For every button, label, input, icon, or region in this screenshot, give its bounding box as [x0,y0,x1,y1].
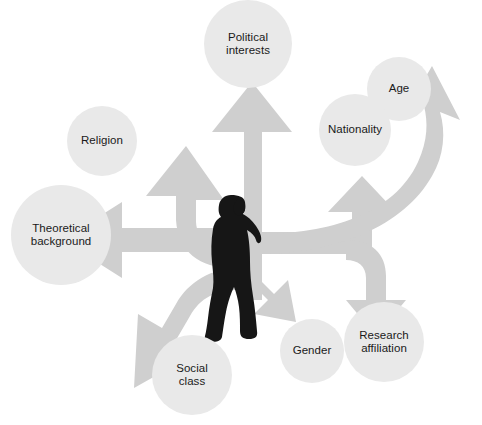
node-label: Gender [293,344,332,358]
node-theoretical-background[interactable]: Theoretical background [11,185,111,285]
diagram-canvas: Political interests Age Nationality Reli… [0,0,482,425]
node-label: Nationality [328,123,382,137]
node-label: Theoretical background [31,222,92,249]
node-label: Research affiliation [359,329,409,356]
node-social-class[interactable]: Social class [152,335,232,415]
node-nationality[interactable]: Nationality [319,94,391,166]
node-gender[interactable]: Gender [280,319,344,383]
node-label: Religion [81,134,123,148]
node-research-affiliation[interactable]: Research affiliation [344,302,424,382]
node-religion[interactable]: Religion [67,106,137,176]
node-label: Age [389,82,410,96]
node-label: Social class [176,362,208,389]
node-political-interests[interactable]: Political interests [204,0,292,88]
node-label: Political interests [226,31,270,58]
